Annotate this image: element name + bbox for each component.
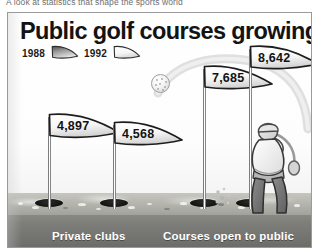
infographic-root: A look at statistics that shape the spor… (0, 0, 322, 249)
legend-label-1992: 1992 (84, 48, 107, 59)
flag-value: 8,642 (258, 51, 290, 65)
golfer-icon (232, 121, 310, 215)
flag-swatch-dark-icon (51, 45, 79, 62)
flag-unit-private-1992: 4,568 (95, 117, 187, 209)
divot-spray (213, 186, 243, 210)
flag-value: 4,568 (122, 127, 154, 141)
flag-swatch-light-icon (113, 45, 141, 62)
category-label-private-clubs: Private clubs (52, 230, 126, 242)
golf-flag-icon: 8,642 (249, 44, 312, 73)
legend-label-1988: 1988 (22, 48, 45, 59)
golf-ball-icon (151, 74, 170, 93)
category-label-band: Private clubs Courses open to public (8, 221, 311, 247)
flag-value: 4,897 (57, 119, 89, 133)
flag-value: 7,685 (212, 71, 244, 85)
category-label-public-courses: Courses open to public (163, 230, 294, 242)
chart-panel: Public golf courses growing 1988 (7, 12, 312, 248)
kicker-line: A look at statistics that shape the spor… (6, 0, 306, 10)
golf-flag-icon: 4,568 (113, 120, 185, 149)
